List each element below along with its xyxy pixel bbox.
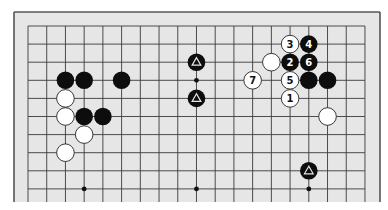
white-stone: 7 bbox=[244, 72, 262, 90]
black-stone: 6 bbox=[300, 53, 318, 71]
black-stone bbox=[300, 162, 318, 180]
move-number: 2 bbox=[287, 57, 294, 68]
move-number: 6 bbox=[305, 57, 312, 68]
white-stone bbox=[75, 126, 93, 144]
black-stone: 4 bbox=[300, 35, 318, 53]
black-stone: 2 bbox=[281, 53, 299, 71]
move-number: 5 bbox=[287, 75, 294, 86]
white-stone bbox=[57, 144, 75, 162]
white-stone: 5 bbox=[281, 72, 299, 90]
white-stone bbox=[57, 90, 75, 108]
black-stone bbox=[75, 72, 93, 90]
white-stone bbox=[319, 108, 337, 126]
white-stone: 1 bbox=[281, 90, 299, 108]
black-stone bbox=[188, 53, 206, 71]
black-stone bbox=[94, 108, 112, 126]
move-number: 7 bbox=[249, 75, 256, 86]
white-stone bbox=[57, 108, 75, 126]
star-point bbox=[82, 187, 87, 192]
white-stone: 3 bbox=[281, 35, 299, 53]
black-stone bbox=[57, 72, 75, 90]
star-point bbox=[194, 78, 199, 83]
move-number: 4 bbox=[305, 39, 312, 50]
star-point bbox=[194, 187, 199, 192]
black-stone bbox=[319, 72, 337, 90]
black-stone bbox=[113, 72, 131, 90]
white-stone bbox=[263, 53, 281, 71]
go-board: 3426751 bbox=[0, 0, 388, 210]
move-number: 3 bbox=[287, 39, 294, 50]
move-number: 1 bbox=[287, 93, 294, 104]
star-point bbox=[306, 187, 311, 192]
black-stone bbox=[188, 90, 206, 108]
black-stone bbox=[75, 108, 93, 126]
black-stone bbox=[300, 72, 318, 90]
